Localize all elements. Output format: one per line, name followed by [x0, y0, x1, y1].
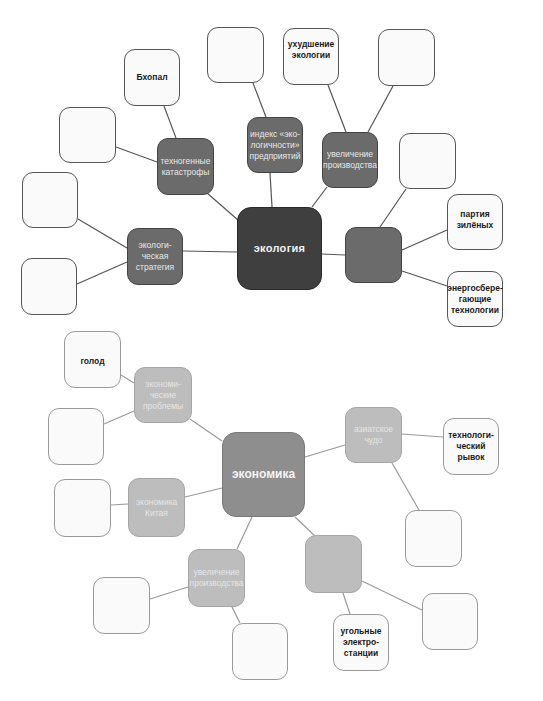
economy-leaf-empty-right[interactable] [405, 510, 462, 567]
economy-leaf-empty-left-1[interactable] [48, 408, 104, 465]
branch-label: увеличение производства [323, 149, 377, 171]
ecology-leaf-empty-right-upper[interactable] [399, 133, 456, 189]
economy-leaf-hunger[interactable]: голод [64, 331, 121, 388]
ecology-branch-empty-right[interactable] [345, 227, 402, 283]
ecology-leaf-green-party[interactable]: партия зилёных [447, 194, 503, 250]
ecology-leaf-empty-top[interactable] [207, 27, 264, 83]
ecology-leaf-empty-top-right[interactable] [378, 29, 435, 86]
ecology-center-label: экология [254, 243, 306, 254]
branch-label: азиатское чудо [354, 424, 393, 446]
branch-label: индекс «эко- логичности» предприятий [250, 129, 301, 162]
ecology-leaf-empty-left-1[interactable] [22, 172, 78, 228]
branch-label: экономика Китая [136, 497, 178, 519]
economy-leaf-empty-left-2[interactable] [54, 479, 111, 537]
economy-leaf-empty-bottom-left[interactable] [93, 577, 150, 634]
economy-center-node[interactable]: экономика [222, 432, 305, 517]
ecology-center-node[interactable]: экология [237, 207, 322, 290]
economy-center-label: экономика [232, 469, 295, 480]
branch-label: увеличение производства [190, 567, 244, 589]
ecology-branch-eco-index[interactable]: индекс «эко- логичности» предприятий [247, 117, 303, 173]
leaf-label: партия зилёных [457, 209, 494, 231]
ecology-leaf-bhopal[interactable]: Бхопал [124, 49, 180, 106]
ecology-branch-tech-disasters[interactable]: техногенные катастрофы [157, 138, 214, 195]
ecology-leaf-empty-left-upper[interactable] [59, 107, 116, 163]
ecology-branch-eco-strategy[interactable]: экологи- ческая стратегия [127, 228, 183, 285]
leaf-label: энергосбере- гающие технологии [447, 283, 503, 316]
leaf-label: технологи- ческий рывок [446, 430, 496, 463]
branch-label: экологи- ческая стратегия [136, 240, 174, 273]
leaf-label: угольные электро- станции [341, 626, 382, 659]
economy-leaf-coal-plants[interactable]: угольные электро- станции [333, 614, 389, 671]
ecology-leaf-eco-decline[interactable]: ухудшение экологии [283, 28, 339, 85]
ecology-leaf-energy-saving[interactable]: энергосбере- гающие технологии [447, 271, 503, 327]
ecology-branch-production-growth[interactable]: увеличение производства [322, 132, 378, 188]
economy-leaf-empty-bottom[interactable] [232, 623, 288, 680]
economy-branch-asian-miracle[interactable]: азиатское чудо [345, 407, 402, 463]
economy-leaf-tech-leap[interactable]: технологи- ческий рывок [443, 418, 499, 475]
economy-branch-economic-problems[interactable]: экономи- ческие проблемы [134, 367, 192, 423]
economy-branch-production-growth[interactable]: увеличение производства [188, 549, 245, 607]
economy-branch-china-economy[interactable]: экономика Китая [128, 478, 185, 537]
leaf-label: ухудшение экологии [288, 39, 334, 61]
economy-leaf-empty-bottom-right[interactable] [422, 593, 478, 650]
branch-label: техногенные катастрофы [161, 156, 211, 178]
leaf-label: голод [80, 356, 104, 367]
branch-label: экономи- ческие проблемы [143, 379, 183, 412]
ecology-leaf-empty-left-2[interactable] [21, 258, 77, 315]
economy-branch-empty-right[interactable] [305, 535, 362, 593]
leaf-label: Бхопал [136, 72, 167, 83]
